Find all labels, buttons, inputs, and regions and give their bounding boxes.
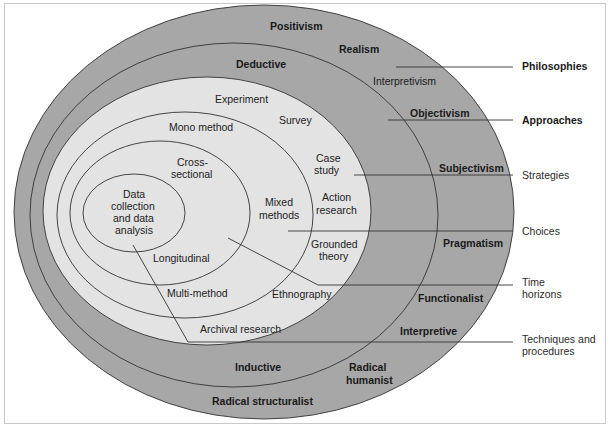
label-interpretivism: Interpretivism <box>373 75 436 87</box>
legend-approaches: Approaches <box>522 114 583 126</box>
label-theory: theory <box>319 250 349 262</box>
label-realism: Realism <box>339 43 379 55</box>
label-longitudinal: Longitudinal <box>153 252 210 264</box>
label-inductive: Inductive <box>235 361 281 373</box>
legend-choices: Choices <box>522 225 560 237</box>
label-grounded: Grounded <box>311 238 358 250</box>
label-analysis: analysis <box>115 224 153 236</box>
label-archival-research: Archival research <box>200 323 281 335</box>
label-multi-method: Multi-method <box>167 287 228 299</box>
label-functionalist: Functionalist <box>418 292 484 304</box>
legend-philosophies: Philosophies <box>522 60 588 72</box>
legend-time-horizons-2: horizons <box>522 288 562 300</box>
label-research: research <box>316 204 357 216</box>
label-survey: Survey <box>279 114 312 126</box>
label-subjectivism: Subjectivism <box>439 162 504 174</box>
legend-time-horizons-1: Time <box>522 276 545 288</box>
label-radical-structuralist: Radical structuralist <box>212 395 313 407</box>
label-positivism: Positivism <box>270 20 323 32</box>
legend-strategies: Strategies <box>522 169 569 181</box>
label-mixed: Mixed <box>265 196 293 208</box>
label-case: Case <box>316 152 341 164</box>
label-ethnography: Ethnography <box>272 288 332 300</box>
label-cross: Cross- <box>177 156 208 168</box>
legend-techniques-1: Techniques and <box>522 333 596 345</box>
research-onion-diagram: Positivism Realism Interpretivism Object… <box>0 0 611 428</box>
label-sectional: sectional <box>171 168 212 180</box>
label-interpretive: Interpretive <box>400 325 457 337</box>
label-and-data: and data <box>113 212 154 224</box>
label-action: Action <box>322 191 351 203</box>
label-mono-method: Mono method <box>169 121 233 133</box>
label-methods: methods <box>259 209 299 221</box>
label-experiment: Experiment <box>215 93 268 105</box>
label-study: study <box>314 164 340 176</box>
label-radical: Radical <box>349 361 386 373</box>
label-deductive: Deductive <box>236 58 286 70</box>
label-pragmatism: Pragmatism <box>443 237 503 249</box>
label-objectivism: Objectivism <box>410 107 470 119</box>
label-collection: collection <box>111 200 155 212</box>
label-humanist: humanist <box>346 374 393 386</box>
legend-techniques-2: procedures <box>522 345 575 357</box>
label-data: Data <box>123 188 145 200</box>
